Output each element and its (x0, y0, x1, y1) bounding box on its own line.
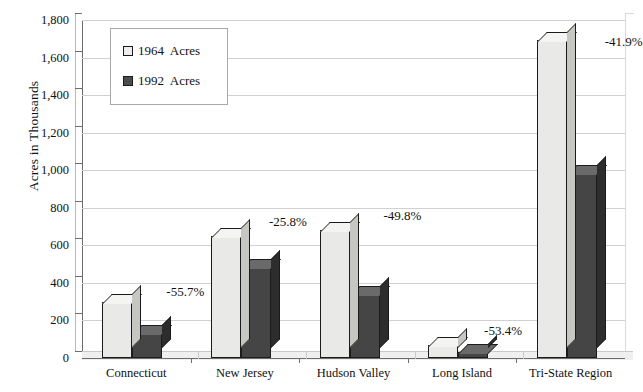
floor-divider (415, 351, 416, 359)
data-label-percent-change: -53.4% (484, 323, 522, 339)
bar-1964-connecticut (102, 302, 132, 358)
x-axis-tick-mark (516, 358, 517, 363)
bar-side-face (567, 23, 576, 348)
bar-1964-tri-state-region (537, 40, 567, 358)
y-axis-tick-label: 1,200 (7, 126, 69, 139)
legend-label-1992: 1992 Acres (138, 74, 200, 87)
bar-front-face (429, 346, 457, 357)
bar-front-face (321, 231, 349, 357)
y-axis-tick-label: 0 (7, 352, 69, 365)
floor-divider (523, 351, 524, 359)
data-label-percent-change: -55.7% (166, 284, 204, 300)
y-axis-tick-mark (75, 126, 82, 127)
bar-1964-hudson-valley (320, 230, 350, 358)
x-axis-category-label: New Jersey (185, 366, 305, 381)
y-axis-tick-label: 1,600 (7, 51, 69, 64)
x-axis-category-label: Connecticut (76, 366, 196, 381)
y-axis-tick-mark (75, 313, 82, 314)
y-axis-tick-mark (75, 163, 82, 164)
bar-side-face (241, 219, 250, 348)
bar-side-face (132, 285, 141, 348)
floor-divider (198, 351, 199, 359)
bar-side-face (350, 213, 359, 348)
legend-entry-1964: 1964 Acres (123, 44, 200, 57)
y-axis-line (82, 20, 83, 358)
x-axis-category-label: Long Island (402, 366, 522, 381)
y-axis-tick-label: 400 (7, 277, 69, 290)
legend: 1964 Acres 1992 Acres (110, 28, 228, 105)
data-label-percent-change: -49.8% (384, 208, 422, 224)
x-axis-tick-mark (191, 358, 192, 363)
gridline (82, 20, 625, 21)
y-axis-tick-label: 200 (7, 314, 69, 327)
x-axis-tick-mark (408, 358, 409, 363)
y-axis-back-line (75, 13, 76, 351)
x-axis-tick-mark (299, 358, 300, 363)
bar-side-face (271, 250, 280, 348)
y-axis-tick-mark (75, 351, 82, 352)
floor-divider (306, 351, 307, 359)
legend-entry-1992: 1992 Acres (123, 74, 200, 87)
legend-swatch-icon-1992 (123, 76, 133, 86)
bar-1964-new-jersey (211, 236, 241, 358)
y-axis-tick-label: 1,800 (7, 14, 69, 27)
bar-front-face (212, 237, 240, 357)
data-label-percent-change: -41.9% (605, 34, 643, 50)
data-label-percent-change: -25.8% (269, 214, 307, 230)
y-axis-tick-mark (75, 51, 82, 52)
y-axis-tick-label: 1,400 (7, 89, 69, 102)
y-axis-tick-mark (75, 238, 82, 239)
bar-1992-long-island (458, 352, 488, 358)
bar-front-face (103, 303, 131, 357)
bar-side-face (380, 277, 389, 348)
y-axis-tick-mark (75, 13, 82, 14)
y-axis-tick-mark (75, 276, 82, 277)
bar-1964-long-island (428, 345, 458, 358)
x-axis-category-label: Hudson Valley (294, 366, 414, 381)
y-axis-tick-label: 1,000 (7, 164, 69, 177)
x-axis-category-label: Tri-State Region (511, 366, 631, 381)
bar-front-face (538, 41, 566, 357)
x-axis-line (82, 358, 625, 359)
legend-swatch-icon-1964 (123, 46, 133, 56)
y-axis-tick-mark (75, 88, 82, 89)
plot-right-wall (625, 13, 634, 359)
y-axis-tick-label: 800 (7, 202, 69, 215)
y-axis-tick-label: 600 (7, 239, 69, 252)
legend-label-1964: 1964 Acres (138, 44, 200, 57)
bar-side-face (597, 156, 606, 348)
y-axis-tick-mark (75, 201, 82, 202)
